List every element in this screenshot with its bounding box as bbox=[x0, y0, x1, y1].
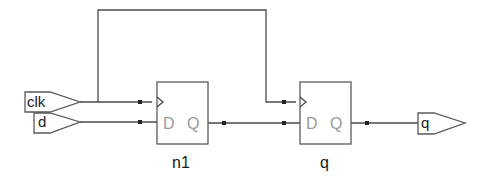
net-q-out bbox=[351, 121, 418, 125]
schematic-canvas: clk d D Q n1 D Q q q bbox=[0, 0, 489, 187]
cell-label-n1: n1 bbox=[172, 154, 190, 171]
pin-q: Q bbox=[187, 115, 199, 132]
schematic-svg: clk d D Q n1 D Q q q bbox=[0, 0, 489, 187]
dff-cell-q[interactable]: D Q q bbox=[300, 82, 351, 171]
input-port-d-label: d bbox=[38, 113, 46, 130]
net-d bbox=[80, 120, 157, 124]
pin-d: D bbox=[306, 115, 318, 132]
input-port-d[interactable]: d bbox=[34, 113, 80, 133]
cell-label-q: q bbox=[320, 154, 329, 171]
output-port-q[interactable]: q bbox=[418, 113, 465, 134]
dff-cell-n1[interactable]: D Q n1 bbox=[157, 82, 208, 171]
net-n1-q bbox=[208, 121, 300, 125]
input-port-clk[interactable]: clk bbox=[25, 92, 80, 112]
output-port-q-label: q bbox=[421, 114, 429, 131]
input-port-clk-label: clk bbox=[27, 93, 46, 110]
pin-q: Q bbox=[330, 115, 342, 132]
pin-d: D bbox=[163, 115, 175, 132]
